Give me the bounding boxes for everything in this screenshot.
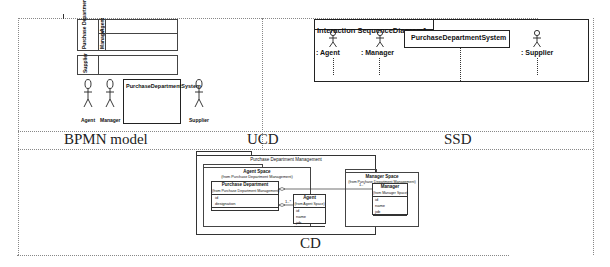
cd-associations	[0, 0, 610, 267]
